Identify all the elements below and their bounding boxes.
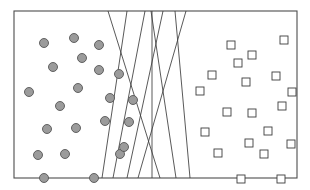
circle-point-13 <box>125 118 134 127</box>
circle-point-22 <box>34 151 43 160</box>
square-point-9 <box>248 109 256 117</box>
square-point-10 <box>278 102 286 110</box>
circle-point-14 <box>43 125 52 134</box>
circle-point-19 <box>90 174 99 183</box>
circle-point-11 <box>129 96 138 105</box>
square-point-12 <box>245 139 253 147</box>
circle-point-2 <box>70 34 79 43</box>
square-point-8 <box>223 108 231 116</box>
square-point-20 <box>288 88 296 96</box>
outer-rectangle <box>14 11 297 178</box>
circle-point-1 <box>40 39 49 48</box>
square-point-11 <box>264 127 272 135</box>
square-point-17 <box>277 175 285 183</box>
diagram-canvas <box>0 0 310 190</box>
circle-point-18 <box>40 174 49 183</box>
circle-point-16 <box>61 150 70 159</box>
square-point-16 <box>237 175 245 183</box>
circle-point-21 <box>120 143 129 152</box>
square-point-18 <box>201 128 209 136</box>
circle-point-3 <box>95 41 104 50</box>
square-point-1 <box>227 41 235 49</box>
square-point-5 <box>242 78 250 86</box>
square-point-4 <box>208 71 216 79</box>
circle-point-5 <box>78 54 87 63</box>
circle-point-20 <box>95 66 104 75</box>
circle-point-7 <box>25 88 34 97</box>
square-point-7 <box>196 87 204 95</box>
square-point-13 <box>287 140 295 148</box>
circle-point-6 <box>115 70 124 79</box>
circle-point-4 <box>49 63 58 72</box>
circle-point-10 <box>56 102 65 111</box>
square-point-15 <box>260 150 268 158</box>
circle-point-8 <box>74 84 83 93</box>
square-point-2 <box>280 36 288 44</box>
square-point-6 <box>272 72 280 80</box>
figure-container: Two point clusters separated by a band o… <box>0 0 310 190</box>
circle-point-15 <box>72 124 81 133</box>
circle-point-9 <box>106 94 115 103</box>
circle-point-12 <box>101 117 110 126</box>
square-point-14 <box>214 149 222 157</box>
square-point-19 <box>234 59 242 67</box>
square-point-3 <box>248 51 256 59</box>
